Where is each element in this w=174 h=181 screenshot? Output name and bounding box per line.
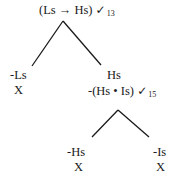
branch-right: [63, 21, 101, 65]
left-branch-formula: -Ls: [10, 68, 27, 82]
branch-left: [32, 21, 63, 66]
right-branch-formula-2: -(Hs • Is): [88, 84, 134, 98]
sub-left-formula: -Hs: [67, 145, 85, 159]
check-icon: ✓: [137, 84, 147, 98]
sub-right-formula: -Is: [153, 145, 166, 159]
right-branch-line-number: 15: [148, 90, 156, 99]
root-line-number: 13: [107, 9, 115, 18]
branch-sub-left: [92, 110, 118, 137]
branch-sub-right: [118, 110, 149, 137]
sub-left-closed-mark: X: [74, 160, 83, 174]
root-node: (Ls → Hs) ✓13: [39, 3, 115, 21]
right-branch-formula-1: Hs: [107, 68, 121, 82]
root-formula: (Ls → Hs): [39, 3, 92, 17]
check-icon: ✓: [96, 3, 106, 17]
sub-right-closed-mark: X: [156, 160, 165, 174]
left-branch-closed-mark: X: [14, 83, 23, 97]
right-branch-node-2: -(Hs • Is) ✓15: [88, 84, 156, 102]
